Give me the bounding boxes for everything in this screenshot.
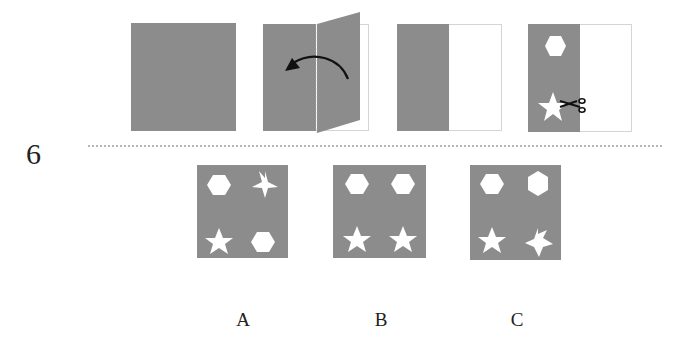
option-c-shapes [0,0,684,352]
hexagon-icon [480,174,504,194]
option-c-label[interactable]: C [502,309,532,331]
hexagon-rotated-icon [528,171,548,196]
star-rotated-icon [525,228,553,257]
star-icon [478,227,506,253]
